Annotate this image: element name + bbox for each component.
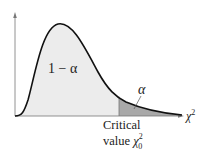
y-axis-arrow-icon xyxy=(13,12,17,18)
critical-label-line1: Critical xyxy=(103,118,141,132)
alpha-label: α xyxy=(138,82,146,97)
left-area-label: 1 − α xyxy=(48,61,78,76)
acceptance-region xyxy=(15,24,182,116)
x-axis-label: χ2 xyxy=(185,108,195,123)
critical-label-line2: value χ20 xyxy=(103,132,143,151)
chi-square-diagram: 1 − α α χ2 Critical value χ20 xyxy=(0,0,209,151)
